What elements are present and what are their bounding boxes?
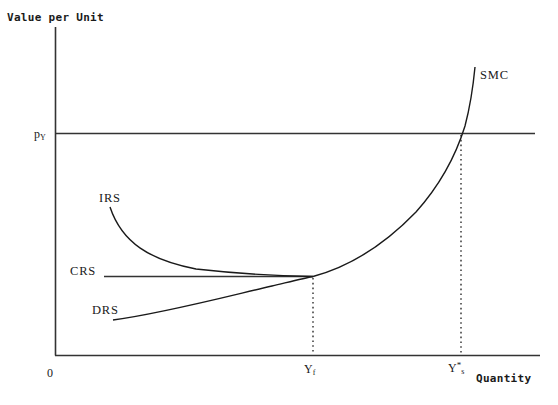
tick-label-ystar-base: Y <box>448 361 457 375</box>
origin-label: 0 <box>47 367 53 379</box>
price-label-subscript: Y <box>40 133 46 142</box>
drs-curve-label: DRS <box>92 304 119 317</box>
tick-label-ystar: Y*s <box>448 361 464 376</box>
y-axis-title: Value per Unit <box>7 12 104 23</box>
smc-drs-curve <box>113 67 475 320</box>
x-axis-title: Quantity <box>476 373 531 384</box>
tick-label-ystar-subscript: s <box>461 367 464 376</box>
plot-canvas <box>0 0 558 405</box>
irs-curve-label: IRS <box>99 192 121 205</box>
crs-curve-label: CRS <box>70 265 96 278</box>
irs-curve <box>110 207 313 277</box>
tick-label-yf-subscript: f <box>313 368 316 377</box>
smc-curve-label: SMC <box>480 69 509 82</box>
tick-label-yf: Yf <box>304 363 315 377</box>
tick-label-yf-base: Y <box>304 362 313 376</box>
economics-returns-to-scale-diagram: Value per Unit Quantity 0 pY SMC IRS CRS… <box>0 0 558 405</box>
price-label-py: pY <box>34 128 46 142</box>
